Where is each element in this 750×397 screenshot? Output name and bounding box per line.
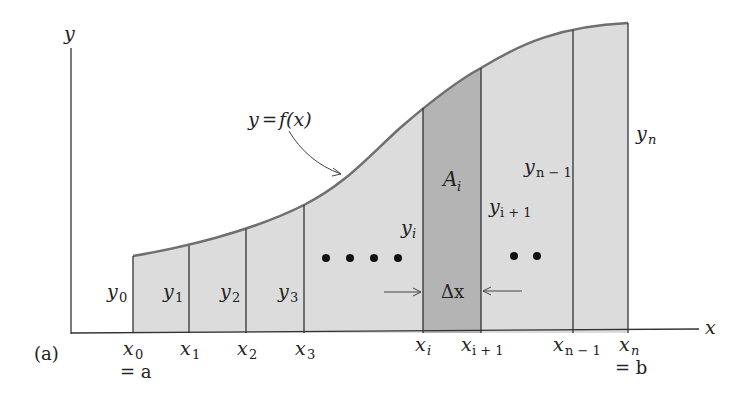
svg-text:x: x bbox=[123, 337, 134, 359]
svg-text:y: y bbox=[247, 108, 259, 130]
svg-text:2: 2 bbox=[249, 347, 257, 362]
svg-text:y: y bbox=[162, 280, 174, 302]
svg-text:x: x bbox=[415, 333, 426, 355]
svg-text:x: x bbox=[553, 333, 564, 355]
svg-text:x: x bbox=[295, 337, 306, 359]
panel-label: (a) bbox=[34, 343, 59, 364]
svg-text:=: = bbox=[262, 109, 277, 130]
svg-text:y: y bbox=[277, 280, 289, 302]
svg-text:3: 3 bbox=[307, 347, 315, 362]
svg-text:y: y bbox=[635, 122, 647, 144]
svg-text:2: 2 bbox=[232, 290, 240, 305]
svg-text:i: i bbox=[457, 179, 461, 194]
svg-text:= b: = b bbox=[615, 357, 647, 378]
curve-label: y = f(x) bbox=[247, 108, 312, 130]
svg-text:f(x): f(x) bbox=[277, 108, 312, 130]
svg-text:1: 1 bbox=[192, 347, 200, 362]
svg-text:x: x bbox=[237, 337, 248, 359]
svg-text:y: y bbox=[523, 155, 535, 177]
x-tick-labels: x 0 = a x 1 x 2 x 3 x i x i + 1 x n − 1 … bbox=[120, 333, 647, 382]
y-axis-label: y bbox=[63, 22, 75, 44]
svg-text:y: y bbox=[219, 280, 231, 302]
svg-text:x: x bbox=[180, 337, 191, 359]
x-axis-label: x bbox=[705, 316, 716, 338]
svg-text:y: y bbox=[488, 195, 500, 217]
svg-text:0: 0 bbox=[119, 290, 127, 305]
svg-text:A: A bbox=[441, 167, 457, 191]
riemann-sum-diagram: y x y = f(x) y 0 y 1 y 2 y 3 y i y i + 1… bbox=[0, 0, 750, 397]
svg-text:0: 0 bbox=[135, 347, 143, 362]
svg-text:i: i bbox=[412, 226, 416, 241]
svg-text:n: n bbox=[648, 132, 656, 147]
svg-text:i + 1: i + 1 bbox=[500, 205, 532, 220]
curve-pointer-arrow bbox=[289, 131, 341, 174]
svg-text:y: y bbox=[106, 280, 118, 302]
svg-text:3: 3 bbox=[290, 290, 298, 305]
svg-text:n: n bbox=[631, 343, 639, 358]
svg-text:1: 1 bbox=[175, 290, 183, 305]
delta-x-label: Δx bbox=[441, 281, 464, 302]
svg-text:y: y bbox=[400, 216, 412, 238]
svg-text:n − 1: n − 1 bbox=[536, 165, 572, 180]
svg-text:n − 1: n − 1 bbox=[565, 343, 601, 358]
svg-text:x: x bbox=[461, 333, 472, 355]
svg-text:= a: = a bbox=[120, 361, 152, 382]
svg-text:i + 1: i + 1 bbox=[472, 343, 504, 358]
svg-text:i: i bbox=[427, 343, 431, 358]
svg-text:x: x bbox=[619, 333, 630, 355]
